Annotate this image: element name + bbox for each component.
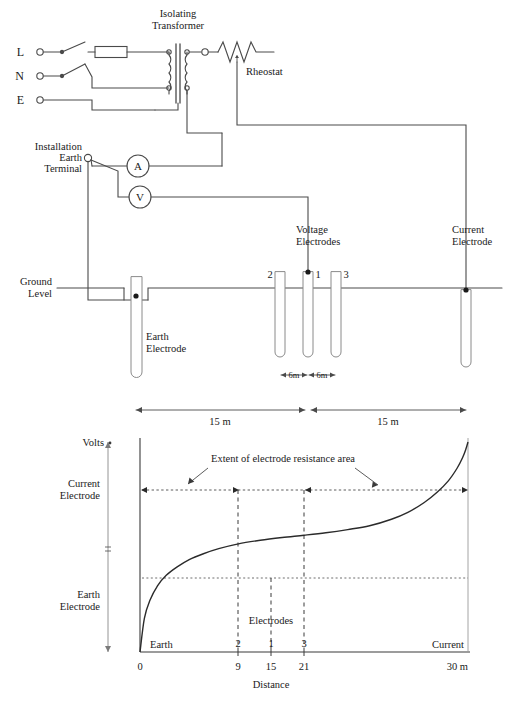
voltmeter-label: V (136, 191, 144, 203)
chart-xticklabel-0: 0 (137, 661, 142, 672)
chart-ylabel-earth-electrode-line2: Electrode (60, 601, 101, 612)
voltage-electrodes-label-line2: Electrodes (296, 236, 340, 247)
chart-electrode-label-3: 3 (301, 638, 306, 649)
wire-N-to-transformer (85, 64, 169, 88)
installation-earth-terminal-label-line1: Installation (35, 141, 83, 152)
dim-label-6m-right: 6m (317, 370, 328, 380)
chart-resistance-right-boundary-arrow-icon (305, 487, 311, 493)
wire-iet-to-earth-electrode (88, 162, 135, 301)
chart-electrode-label-2: 2 (235, 638, 240, 649)
wire-secondary-bottom (187, 91, 222, 134)
earth-electrode-connection-dot-icon (133, 293, 138, 298)
chart-ylabel-current-electrode-line1: Current (68, 478, 100, 489)
dim-6m-right-arrow-end-icon (330, 372, 335, 377)
rheostat-wiper-arrow-icon (235, 55, 239, 58)
earth-electrode-label-line1: Earth (146, 331, 169, 342)
electrode-number-3: 3 (343, 269, 348, 280)
current-electrode-label-line1: Current (452, 224, 484, 235)
chart-xticklabel-9: 9 (235, 661, 240, 672)
rheostat-label: Rheostat (246, 66, 283, 77)
chart-xticklabel-21: 21 (299, 661, 310, 672)
voltage-electrode-rod-3-icon (331, 272, 341, 357)
circuit-diagram: L N E Isolating Transformer Rheostat A V… (0, 0, 509, 430)
chart-earth-end-label: Earth (150, 639, 173, 650)
ground-level-line-right (148, 288, 502, 300)
chart-annotation-extent: Extent of electrode resistance area (211, 453, 355, 464)
terminal-label-N: N (15, 69, 24, 83)
terminal-label-E: E (17, 93, 24, 107)
wire-E-to-frame (44, 100, 156, 110)
earth-electrode-label-line2: Electrode (146, 343, 187, 354)
dim-label-15m-left: 15 m (209, 416, 230, 427)
dim-15m-left-arrow-start-icon (136, 407, 142, 413)
rheostat-left-terminal-icon (202, 49, 208, 55)
dim-6m-left-arrow-start-icon (281, 372, 286, 377)
installation-earth-terminal-label-line2: Earth (59, 152, 82, 163)
current-electrode-label-line2: Electrode (452, 236, 493, 247)
chart-y-range-arrow-bottom-icon (105, 646, 111, 652)
dim-label-6m-left: 6m (289, 370, 300, 380)
potential-gradient-chart: Volts Current Electrode Earth Electrode … (0, 430, 509, 708)
chart-ylabel-volts-dot-icon (109, 442, 112, 445)
dim-6m-left-arrow-end-icon (302, 372, 307, 377)
dim-6m-right-arrow-start-icon (309, 372, 314, 377)
current-electrode-rod-icon (461, 290, 471, 367)
terminal-N-icon (37, 73, 43, 79)
voltage-electrodes-label-line1: Voltage (296, 224, 328, 235)
earth-electrode-rod-icon (131, 277, 142, 378)
chart-ylabel-volts: Volts (83, 437, 104, 448)
switch-L-pivot-icon (60, 50, 63, 53)
chart-ylabel-earth-electrode-line1: Earth (77, 589, 100, 600)
chart-xticklabel-15: 15 (266, 661, 277, 672)
switch-N-icon (62, 64, 85, 76)
figure-root: L N E Isolating Transformer Rheostat A V… (0, 0, 509, 708)
dim-15m-left-arrow-end-icon (299, 407, 305, 413)
ground-level-label-line2: Level (28, 288, 52, 299)
ammeter-label: A (134, 160, 142, 172)
transformer-label-line2: Transformer (152, 20, 205, 31)
chart-upper-level-arrow-right-icon (462, 487, 468, 493)
transformer-label-line1: Isolating (160, 8, 197, 19)
chart-electrodes-caption: Electrodes (249, 615, 293, 626)
transformer-secondary-coil-icon (185, 52, 187, 94)
installation-earth-terminal-icon (84, 154, 91, 161)
dim-15m-right-arrow-start-icon (311, 407, 317, 413)
terminal-L-icon (37, 49, 43, 55)
voltage-electrode-rod-1-icon (303, 272, 313, 357)
ground-level-label-line1: Ground (20, 276, 53, 287)
electrode-number-2: 2 (267, 269, 272, 280)
terminal-label-L: L (17, 45, 24, 59)
chart-upper-level-arrow-left-icon (141, 487, 147, 493)
transformer-core-earth-link (155, 103, 178, 110)
terminal-E-icon (37, 97, 43, 103)
installation-earth-terminal-label-line3: Terminal (44, 163, 82, 174)
switch-L-icon (62, 42, 85, 52)
wire-rheostat-to-current-electrode (237, 62, 466, 290)
current-electrode-connection-dot-icon (463, 287, 468, 292)
voltage-electrode-rod-2-icon (275, 272, 285, 357)
electrode-number-1: 1 (315, 269, 320, 280)
fuse-icon (95, 47, 127, 58)
chart-current-end-label: Current (432, 639, 464, 650)
chart-electrode-label-1: 1 (268, 638, 273, 649)
dim-15m-right-arrow-end-icon (460, 407, 466, 413)
voltage-electrode-connection-dot-icon (305, 269, 310, 274)
annotation-arrow-left-icon (188, 478, 194, 485)
wire-voltmeter-to-voltage-electrode (151, 197, 308, 272)
switch-N-pivot-icon (60, 74, 63, 77)
chart-ylabel-current-electrode-line2: Electrode (60, 490, 101, 501)
rheostat-icon (218, 42, 274, 62)
dim-label-15m-right: 15 m (377, 416, 398, 427)
annotation-leader-right (355, 468, 378, 485)
chart-xticklabel-30: 30 m (447, 661, 468, 672)
chart-xlabel-distance: Distance (253, 679, 290, 690)
